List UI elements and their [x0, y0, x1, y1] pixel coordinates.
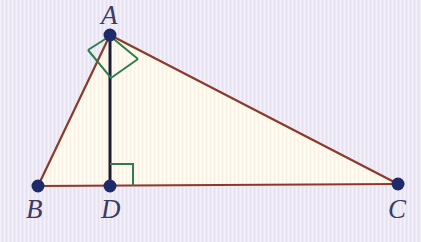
vertex-label-B: B [26, 196, 43, 223]
triangle-diagram [0, 0, 421, 242]
geometry-figure: A B D C [0, 0, 421, 242]
vertex-dot-C [392, 178, 405, 191]
vertex-dot-B [32, 180, 45, 193]
vertex-dot-A [104, 29, 117, 42]
vertex-label-C: C [388, 196, 407, 223]
vertex-label-D: D [101, 196, 121, 223]
vertex-label-A: A [101, 2, 118, 29]
vertex-dot-D [104, 180, 117, 193]
